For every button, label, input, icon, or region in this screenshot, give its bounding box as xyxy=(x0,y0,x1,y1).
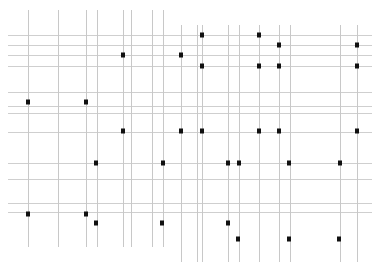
grid-dot xyxy=(226,221,230,226)
grid-dot xyxy=(84,100,88,105)
dot-grid-diagram xyxy=(0,0,377,272)
grid-dot xyxy=(160,221,164,226)
grid-dot xyxy=(236,237,240,242)
grid-dot xyxy=(287,161,291,166)
grid-dot xyxy=(94,221,98,226)
grid-dot xyxy=(355,64,359,69)
grid-dot xyxy=(94,161,98,166)
grid-dot xyxy=(277,43,281,48)
grid-dot xyxy=(121,129,125,134)
grid-dots xyxy=(26,33,359,242)
grid-dot xyxy=(226,161,230,166)
grid-dot xyxy=(200,129,204,134)
grid-dot xyxy=(237,161,241,166)
grid-dot xyxy=(277,129,281,134)
grid-dot xyxy=(84,212,88,217)
grid-dot xyxy=(200,33,204,38)
grid-dot xyxy=(257,33,261,38)
grid-dot xyxy=(161,161,165,166)
grid-dot xyxy=(355,129,359,134)
grid-dot xyxy=(26,100,30,105)
grid-dot xyxy=(338,161,342,166)
grid-dot xyxy=(355,43,359,48)
grid-dot xyxy=(277,64,281,69)
horizontal-grid-lines xyxy=(8,36,372,213)
grid-dot xyxy=(121,53,125,58)
vertical-grid-lines xyxy=(29,10,358,262)
grid-dot xyxy=(26,212,30,217)
grid-dot xyxy=(179,129,183,134)
grid-dot xyxy=(287,237,291,242)
grid-dot xyxy=(200,64,204,69)
grid-dot xyxy=(257,129,261,134)
grid-dot xyxy=(257,64,261,69)
grid-dot xyxy=(337,237,341,242)
grid-dot xyxy=(179,53,183,58)
